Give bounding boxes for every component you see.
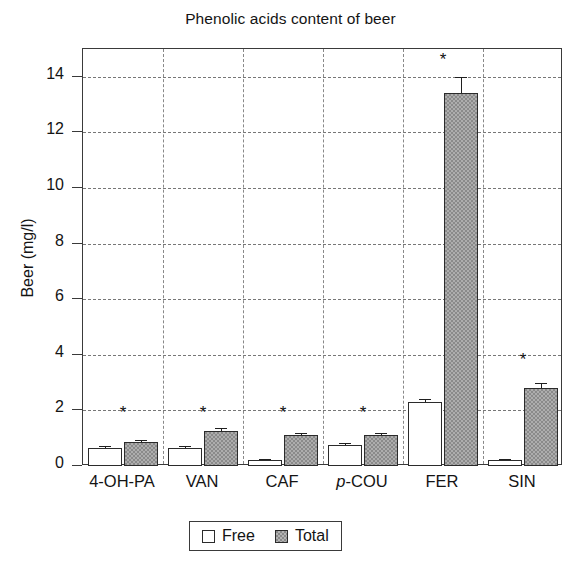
- x-axis-tick-label: p-COU: [336, 472, 387, 491]
- filled-square-icon: [275, 530, 288, 543]
- gridline: [83, 188, 561, 189]
- bar-sin-total: [524, 388, 558, 466]
- y-axis-tick-label: 14: [0, 65, 64, 83]
- bar-fer-free: [408, 402, 442, 466]
- y-axis-title: Beer (mg/l): [19, 178, 37, 338]
- bar-4-oh-pa-free: [88, 448, 122, 466]
- y-axis-tick-label: 4: [0, 343, 64, 361]
- legend-item-total[interactable]: Total: [275, 527, 329, 545]
- y-axis-tick: [72, 298, 82, 299]
- bar-caf-free: [248, 460, 282, 466]
- y-axis-tick: [72, 354, 82, 355]
- y-axis-tick: [72, 76, 82, 77]
- gridline: [83, 77, 561, 78]
- y-axis-tick: [72, 243, 82, 244]
- group-separator: [323, 49, 324, 464]
- error-bar-cap: [99, 446, 111, 447]
- error-bar-cap: [135, 440, 147, 441]
- x-axis-tick-label: 4-OH-PA: [89, 472, 155, 491]
- bar-van-free: [168, 448, 202, 466]
- group-separator: [403, 49, 404, 464]
- significance-marker: *: [120, 404, 127, 421]
- y-axis-tick: [72, 131, 82, 132]
- significance-marker: *: [280, 404, 287, 421]
- error-bar-cap: [339, 443, 351, 444]
- group-separator: [243, 49, 244, 464]
- error-bar-cap: [455, 77, 467, 78]
- y-axis-tick: [72, 409, 82, 410]
- significance-marker: *: [440, 51, 447, 68]
- error-bar-cap: [375, 433, 387, 434]
- bar-van-total: [204, 431, 238, 466]
- y-axis-tick: [72, 465, 82, 466]
- chart-legend: FreeTotal: [189, 521, 342, 551]
- significance-marker: *: [360, 404, 367, 421]
- error-bar-cap: [419, 399, 431, 400]
- y-axis-tick-label: 8: [0, 232, 64, 250]
- bar-fer-total: [444, 93, 478, 466]
- y-axis-tick-label: 0: [0, 454, 64, 472]
- significance-marker: *: [200, 404, 207, 421]
- bar-p-cou-total: [364, 435, 398, 466]
- error-bar-cap: [259, 459, 271, 460]
- x-axis-tick-label: CAF: [266, 472, 299, 491]
- error-bar-cap: [535, 383, 547, 384]
- error-bar-cap: [179, 446, 191, 447]
- gridline: [83, 299, 561, 300]
- gridline: [83, 244, 561, 245]
- y-axis-tick-label: 6: [0, 287, 64, 305]
- error-bar-cap: [295, 433, 307, 434]
- group-separator: [483, 49, 484, 464]
- plot-area: ******: [82, 48, 562, 465]
- bar-sin-free: [488, 460, 522, 466]
- significance-marker: *: [520, 351, 527, 368]
- legend-item-free[interactable]: Free: [202, 527, 255, 545]
- gridline: [83, 132, 561, 133]
- y-axis-tick-label: 2: [0, 398, 64, 416]
- x-axis-tick-label: SIN: [508, 472, 536, 491]
- x-axis-tick-label: VAN: [186, 472, 219, 491]
- error-bar-stem: [461, 77, 462, 94]
- x-axis-tick-label: FER: [426, 472, 459, 491]
- gridline: [83, 410, 561, 411]
- y-axis-tick-label: 10: [0, 176, 64, 194]
- y-axis-tick-label: 12: [0, 120, 64, 138]
- legend-item-label: Total: [295, 527, 329, 545]
- chart-figure: Phenolic acids content of beer Beer (mg/…: [0, 0, 581, 564]
- legend-item-label: Free: [222, 527, 255, 545]
- bar-caf-total: [284, 435, 318, 466]
- chart-title: Phenolic acids content of beer: [0, 10, 581, 28]
- bar-p-cou-free: [328, 445, 362, 466]
- bar-4-oh-pa-total: [124, 442, 158, 466]
- open-square-icon: [202, 530, 215, 543]
- error-bar-cap: [499, 459, 511, 460]
- group-separator: [163, 49, 164, 464]
- y-axis-tick: [72, 187, 82, 188]
- gridline: [83, 355, 561, 356]
- error-bar-cap: [215, 428, 227, 429]
